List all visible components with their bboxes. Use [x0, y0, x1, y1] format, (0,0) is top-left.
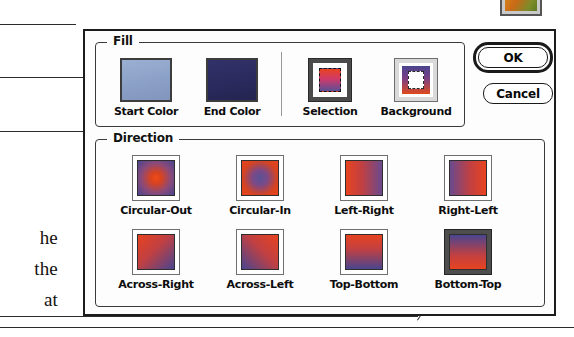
direction-cell-circular-out[interactable]: Circular-Out	[113, 155, 199, 217]
direction-label: Bottom-Top	[425, 278, 511, 291]
cancel-button[interactable]: Cancel	[483, 83, 553, 104]
leader-line-start-color	[0, 77, 84, 78]
background-icon[interactable]	[394, 58, 438, 102]
direction-preview-across-left	[241, 234, 279, 270]
direction-cell-left-right[interactable]: Left-Right	[321, 155, 407, 217]
direction-tile[interactable]	[236, 155, 284, 201]
direction-cell-circular-in[interactable]: Circular-In	[217, 155, 303, 217]
direction-label: Circular-In	[217, 204, 303, 217]
direction-tile[interactable]	[340, 229, 388, 275]
direction-cell-top-bottom[interactable]: Top-Bottom	[321, 229, 407, 291]
direction-tile[interactable]	[444, 155, 492, 201]
background-label: Background	[379, 105, 453, 118]
leader-line-bottom-rule	[0, 327, 574, 328]
body-text-line: at	[0, 284, 58, 315]
fill-group-label: Fill	[107, 34, 139, 48]
start-color-swatch[interactable]	[120, 58, 172, 102]
direction-cell-across-right[interactable]: Across-Right	[113, 229, 199, 291]
direction-cell-bottom-top[interactable]: Bottom-Top	[425, 229, 511, 291]
direction-tile[interactable]	[236, 229, 284, 275]
start-color-label: Start Color	[109, 105, 183, 118]
direction-tile[interactable]	[340, 155, 388, 201]
end-color-swatch[interactable]	[206, 58, 258, 102]
end-color-label: End Color	[195, 105, 269, 118]
marquee-icon	[319, 68, 341, 92]
background-cell[interactable]: Background	[379, 58, 453, 118]
fill-group-divider	[281, 52, 282, 116]
selection-icon[interactable]	[308, 58, 352, 102]
direction-label: Across-Left	[217, 278, 303, 291]
direction-label: Across-Right	[113, 278, 199, 291]
fill-group: Fill Start Color End Color Selection	[95, 42, 465, 127]
body-text-line: he	[0, 222, 58, 253]
direction-preview-circular-out	[137, 160, 175, 196]
selection-cell[interactable]: Selection	[293, 58, 367, 118]
background-icon-inner	[399, 63, 433, 97]
leader-line-bottom-rule-2	[0, 316, 418, 317]
selection-icon-inner	[313, 63, 347, 97]
direction-tile[interactable]	[132, 229, 180, 275]
direction-preview-right-left	[449, 160, 487, 196]
direction-label: Left-Right	[321, 204, 407, 217]
image-thumbnail[interactable]	[500, 0, 542, 16]
start-color-cell[interactable]: Start Color	[109, 58, 183, 118]
direction-cell-right-left[interactable]: Right-Left	[425, 155, 511, 217]
gradient-dialog: Fill Start Color End Color Selection	[83, 29, 556, 316]
direction-label: Circular-Out	[113, 204, 199, 217]
direction-preview-bottom-top	[449, 234, 487, 270]
direction-label: Top-Bottom	[321, 278, 407, 291]
body-text: he the at	[0, 222, 58, 315]
direction-preview-left-right	[345, 160, 383, 196]
thumbnail-preview	[505, 0, 537, 11]
end-color-cell[interactable]: End Color	[195, 58, 269, 118]
selection-label: Selection	[293, 105, 367, 118]
direction-group-label: Direction	[107, 131, 179, 145]
ok-button[interactable]: OK	[478, 47, 548, 68]
direction-tile-selected[interactable]	[444, 229, 492, 275]
direction-tile[interactable]	[132, 155, 180, 201]
direction-cell-across-left[interactable]: Across-Left	[217, 229, 303, 291]
background-hole-icon	[408, 71, 424, 89]
direction-label: Right-Left	[425, 204, 511, 217]
leader-line-top-rule	[0, 24, 76, 25]
direction-preview-top-bottom	[345, 234, 383, 270]
direction-group: Direction Circular-Out Circular-In Left-…	[95, 139, 545, 307]
background-gradient-icon	[402, 66, 430, 94]
body-text-line: the	[0, 253, 58, 284]
direction-preview-circular-in	[241, 160, 279, 196]
direction-preview-across-right	[137, 234, 175, 270]
